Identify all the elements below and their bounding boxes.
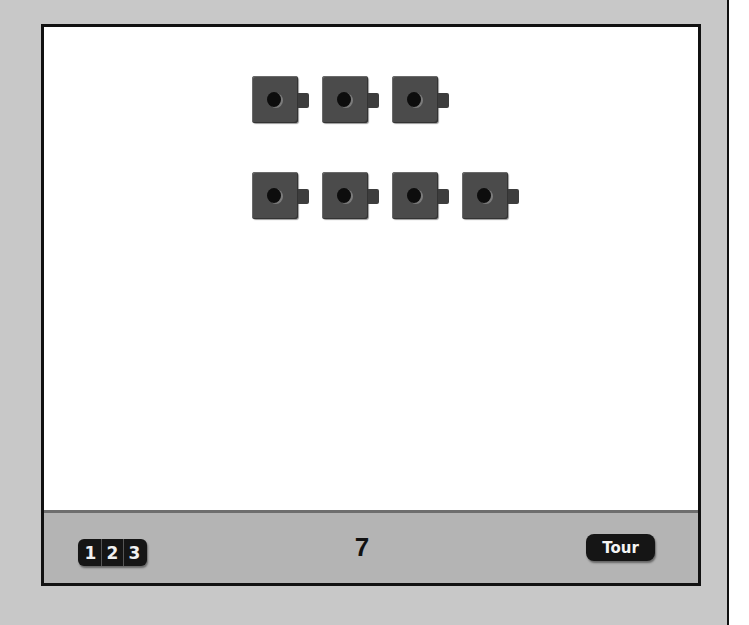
block-connector-knob — [368, 93, 379, 108]
block-count-display: 7 — [342, 532, 382, 563]
tour-button[interactable]: Tour — [586, 534, 655, 561]
bottom-toolbar: 1 2 3 7 Tour — [44, 510, 698, 583]
block-hole-icon — [267, 188, 281, 203]
digit-2: 2 — [102, 539, 124, 566]
connecting-cube-block[interactable] — [392, 76, 452, 124]
block-connector-knob — [368, 189, 379, 204]
block-body — [392, 76, 438, 123]
connecting-cube-block[interactable] — [462, 172, 522, 220]
stage-frame: 1 2 3 7 Tour — [41, 24, 701, 586]
connecting-cube-block[interactable] — [392, 172, 452, 220]
connecting-cube-block[interactable] — [322, 76, 382, 124]
block-connector-knob — [298, 189, 309, 204]
block-body — [252, 172, 298, 219]
block-hole-icon — [477, 188, 491, 203]
connecting-cube-block[interactable] — [252, 172, 312, 220]
block-hole-icon — [267, 92, 281, 107]
block-connector-knob — [438, 93, 449, 108]
digit-3: 3 — [124, 539, 145, 566]
block-connector-knob — [438, 189, 449, 204]
block-body — [322, 76, 368, 123]
block-hole-icon — [407, 188, 421, 203]
block-hole-icon — [337, 188, 351, 203]
work-area[interactable] — [44, 27, 698, 510]
block-body — [392, 172, 438, 219]
digit-1: 1 — [80, 539, 102, 566]
outer-panel: 1 2 3 7 Tour — [0, 0, 729, 625]
block-body — [252, 76, 298, 123]
block-hole-icon — [407, 92, 421, 107]
number-display-toggle-button[interactable]: 1 2 3 — [78, 539, 147, 566]
connecting-cube-block[interactable] — [252, 76, 312, 124]
block-connector-knob — [298, 93, 309, 108]
block-body — [322, 172, 368, 219]
block-body — [462, 172, 508, 219]
block-hole-icon — [337, 92, 351, 107]
block-connector-knob — [508, 189, 519, 204]
connecting-cube-block[interactable] — [322, 172, 382, 220]
